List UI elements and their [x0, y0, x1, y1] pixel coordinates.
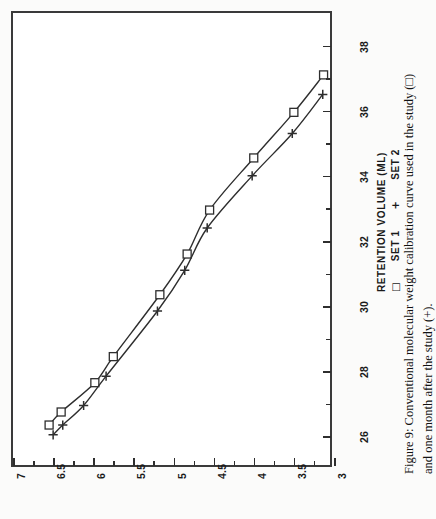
logmw-tick-label: 3.5 — [296, 464, 308, 479]
retention-tick-label: 34 — [358, 171, 370, 183]
calibration-curve-svg — [13, 13, 334, 469]
retention-tick-label: 38 — [358, 40, 370, 52]
retention-minor-tick — [326, 404, 331, 406]
figure-page: 76.565.554.543.53 26283032343638 RETENTI… — [0, 0, 436, 519]
data-point-marker-square — [250, 154, 258, 162]
data-point-marker-square — [57, 408, 65, 416]
retention-minor-tick — [326, 143, 331, 145]
plot-frame — [11, 11, 332, 467]
logmw-tick — [93, 458, 95, 466]
logmw-minor-tick — [73, 461, 75, 466]
data-point-marker-square — [91, 379, 99, 387]
logmw-minor-tick — [314, 461, 316, 466]
caption-line-1: Figure 9: Conventional molecular weight … — [400, 44, 419, 474]
data-point-marker-square — [156, 291, 164, 299]
retention-tick-label: 30 — [358, 301, 370, 313]
retention-minor-tick — [326, 339, 331, 341]
retention-tick — [323, 176, 331, 178]
caption-line-2: and one month after the study (+). — [419, 44, 436, 474]
logmw-tick — [254, 458, 256, 466]
retention-tick — [323, 46, 331, 48]
logmw-minor-tick — [153, 461, 155, 466]
logmw-tick — [13, 458, 15, 466]
logmw-tick-label: 4.5 — [216, 464, 228, 479]
logmw-tick-label: 6 — [95, 473, 107, 479]
logmw-tick-label: 5.5 — [135, 464, 147, 479]
logmw-tick — [214, 458, 216, 466]
logmw-minor-tick — [113, 461, 115, 466]
figure-caption: Figure 9: Conventional molecular weight … — [400, 44, 436, 474]
logmw-minor-tick — [194, 461, 196, 466]
retention-tick — [323, 111, 331, 113]
retention-tick-label: 26 — [358, 431, 370, 443]
retention-minor-tick — [326, 78, 331, 80]
retention-tick-label: 32 — [358, 236, 370, 248]
legend: RETENTION VOLUME (ML) □ SET 1 + SET 2 — [376, 149, 401, 292]
series-group — [45, 71, 327, 440]
retention-tick — [323, 241, 331, 243]
data-point-marker-square — [206, 206, 214, 214]
logmw-tick-label: 6.5 — [55, 464, 67, 479]
logmw-tick-label: 7 — [15, 473, 27, 479]
data-point-marker-square — [290, 108, 298, 116]
retention-minor-tick — [326, 208, 331, 210]
plot-area — [13, 13, 330, 465]
logmw-minor-tick — [234, 461, 236, 466]
logmw-tick-label: 4 — [256, 473, 268, 479]
retention-tick — [323, 371, 331, 373]
logmw-minor-tick — [274, 461, 276, 466]
data-point-marker-square — [183, 250, 191, 258]
retention-tick — [323, 306, 331, 308]
data-point-marker-plus — [180, 266, 189, 275]
logmw-minor-tick — [33, 461, 35, 466]
retention-tick-label: 36 — [358, 106, 370, 118]
series-set-1 — [45, 71, 327, 429]
data-point-marker-square — [45, 421, 53, 429]
logmw-tick-label: 3 — [336, 473, 348, 479]
retention-tick-label: 28 — [358, 366, 370, 378]
logmw-tick-label: 5 — [176, 473, 188, 479]
logmw-tick — [334, 458, 336, 466]
retention-tick — [323, 436, 331, 438]
legend-title: RETENTION VOLUME (ML) — [376, 149, 387, 292]
retention-minor-tick — [326, 274, 331, 276]
data-point-marker-square — [109, 353, 117, 361]
logmw-tick — [174, 458, 176, 466]
